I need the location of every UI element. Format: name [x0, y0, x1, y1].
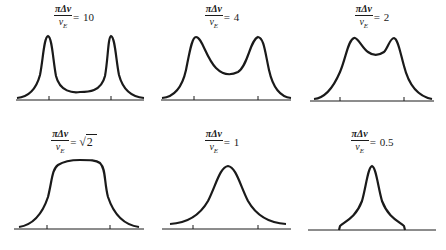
lineshape-curve-4 — [148, 0, 296, 125]
panel-ratio-2: πΔν νE = 2 — [298, 0, 446, 125]
lineshape-curve-2 — [298, 0, 446, 125]
lineshape-curve-10 — [0, 0, 148, 125]
panel-ratio-0-5: πΔν νE = 0.5 — [298, 125, 446, 250]
lineshape-curve-1 — [148, 125, 296, 250]
lineshape-curve-sqrt2 — [0, 125, 148, 250]
panel-ratio-4: πΔν νE = 4 — [148, 0, 296, 125]
lineshape-curve-0-5 — [298, 125, 446, 250]
panel-ratio-10: πΔν νE = 10 — [0, 0, 148, 125]
panel-ratio-sqrt2: πΔν νE = √2 — [0, 125, 148, 250]
panel-ratio-1: πΔν νE = 1 — [148, 125, 296, 250]
